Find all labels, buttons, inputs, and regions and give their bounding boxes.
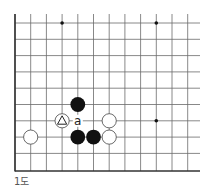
white-stone xyxy=(24,130,38,144)
board-grid xyxy=(15,14,200,172)
point-label-a: a xyxy=(74,114,81,128)
star-point xyxy=(60,21,64,25)
black-stone xyxy=(70,130,85,145)
black-stone xyxy=(70,97,85,112)
white-stone xyxy=(102,114,116,128)
star-point xyxy=(155,119,159,123)
go-board-diagram: a xyxy=(0,0,214,190)
star-point xyxy=(155,21,159,25)
diagram-caption: 1도 xyxy=(14,176,29,188)
white-stone xyxy=(102,130,116,144)
black-stone xyxy=(86,130,101,145)
